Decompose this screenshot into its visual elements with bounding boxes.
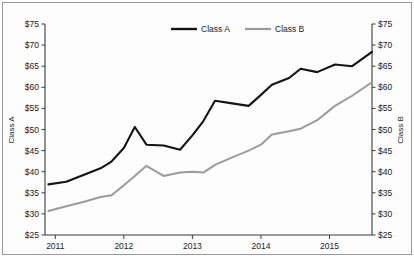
left-axis-tick-label: $65 — [25, 61, 39, 71]
left-axis-title: Class A — [7, 116, 16, 144]
left-axis-tick-label: $35 — [25, 188, 39, 198]
right-axis-tick-label: $35 — [378, 188, 392, 198]
right-axis-tick-label: $60 — [378, 82, 392, 92]
left-axis-tick-label: $55 — [25, 103, 39, 113]
line-chart: Class AClass B $75$70$65$60$55$50$45$40$… — [3, 3, 411, 254]
right-axis: $75$70$65$60$55$50$45$40$35$30$25 — [372, 19, 392, 240]
left-axis-tick-label: $60 — [25, 82, 39, 92]
chart-series — [48, 52, 372, 211]
left-axis-tick-label: $70 — [25, 40, 39, 50]
legend-label-class-a: Class A — [201, 24, 230, 34]
left-axis-tick-label: $30 — [25, 209, 39, 219]
right-axis-title: Class B — [396, 116, 405, 144]
x-axis-tick-label: 2014 — [251, 241, 270, 251]
left-axis-tick-label: $45 — [25, 146, 39, 156]
right-axis-tick-label: $75 — [378, 19, 392, 29]
x-axis-tick-label: 2013 — [183, 241, 202, 251]
left-axis-tick-label: $50 — [25, 125, 39, 135]
chart-legend: Class AClass B — [171, 24, 305, 34]
x-axis-tick-label: 2011 — [46, 241, 65, 251]
left-axis: $75$70$65$60$55$50$45$40$35$30$25 — [25, 19, 45, 240]
x-axis: 20112012201320142015 — [45, 235, 372, 251]
right-axis-tick-label: $30 — [378, 209, 392, 219]
series-line-class-b — [48, 82, 372, 211]
right-axis-tick-label: $70 — [378, 40, 392, 50]
left-axis-tick-label: $25 — [25, 230, 39, 240]
right-axis-tick-label: $50 — [378, 125, 392, 135]
right-axis-tick-label: $55 — [378, 103, 392, 113]
right-axis-tick-label: $65 — [378, 61, 392, 71]
left-axis-tick-label: $75 — [25, 19, 39, 29]
right-axis-tick-label: $40 — [378, 167, 392, 177]
series-line-class-a — [48, 52, 372, 185]
left-axis-tick-label: $40 — [25, 167, 39, 177]
x-axis-tick-label: 2012 — [114, 241, 133, 251]
legend-label-class-b: Class B — [275, 24, 305, 34]
chart-container: Class AClass B $75$70$65$60$55$50$45$40$… — [2, 2, 412, 255]
x-axis-tick-label: 2015 — [320, 241, 339, 251]
right-axis-tick-label: $25 — [378, 230, 392, 240]
right-axis-tick-label: $45 — [378, 146, 392, 156]
